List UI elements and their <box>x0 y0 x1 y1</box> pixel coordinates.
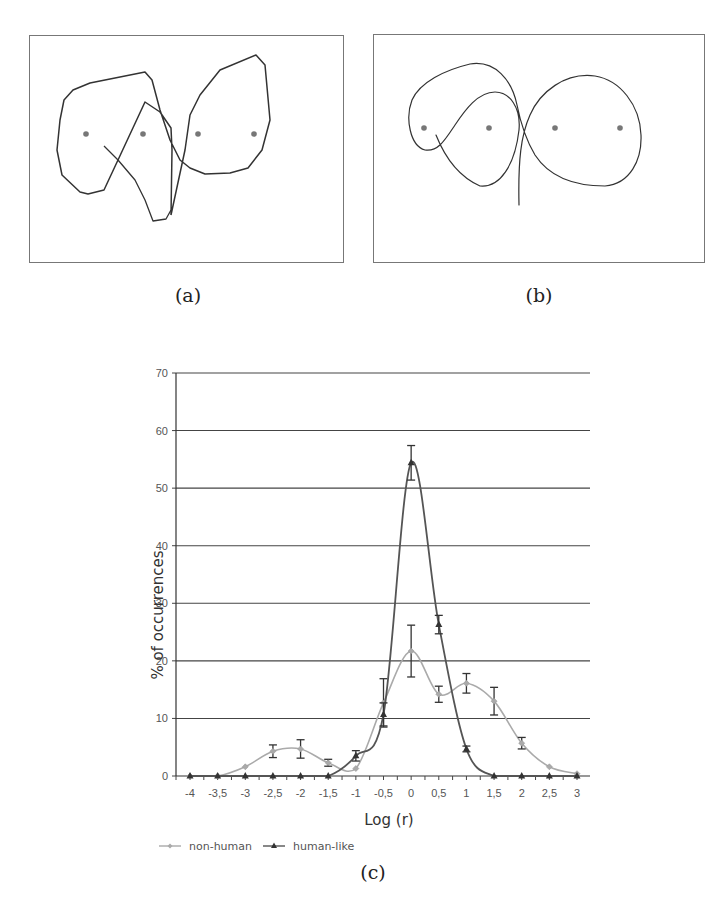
x-tick-label: 0,5 <box>431 787 446 799</box>
legend-diamond-icon <box>168 844 173 849</box>
series-human-like <box>187 446 581 779</box>
panel-c-caption: (c) <box>360 861 385 883</box>
triangle-marker-icon <box>435 621 442 628</box>
y-tick-label: 10 <box>156 712 168 724</box>
x-tick-label: 2,5 <box>542 787 557 799</box>
x-tick-label: -2 <box>296 787 306 799</box>
x-tick-label: -1 <box>351 787 361 799</box>
chart-series <box>187 446 581 779</box>
x-tick-label: 3 <box>574 787 580 799</box>
legend-label: human-like <box>293 840 354 853</box>
y-tick-label: 40 <box>156 540 168 552</box>
diamond-marker-icon <box>298 746 304 752</box>
y-tick-label: 0 <box>162 770 168 782</box>
x-tick-label: -2,5 <box>263 787 282 799</box>
y-tick-label: 70 <box>156 367 168 379</box>
x-tick-label: 2 <box>519 787 525 799</box>
legend-label: non-human <box>189 840 252 853</box>
x-tick-label: -4 <box>185 787 195 799</box>
chart-legend: non-humanhuman-like <box>159 840 354 853</box>
y-axis-title: % of occurrences <box>149 550 167 679</box>
y-tick-label: 60 <box>156 425 168 437</box>
diamond-marker-icon <box>242 764 248 770</box>
x-tick-label: -3,5 <box>208 787 227 799</box>
triangle-marker-icon <box>380 710 387 717</box>
legend-triangle-icon <box>271 843 277 849</box>
x-tick-label: 0 <box>408 787 414 799</box>
chart-axes: 010203040506070-4-3,5-3-2,5-2-1,5-1-0,50… <box>156 367 590 799</box>
diamond-marker-icon <box>325 760 331 766</box>
series-line <box>190 462 577 776</box>
x-axis-title: Log (r) <box>364 811 413 829</box>
diamond-marker-icon <box>270 748 276 754</box>
x-tick-label: -0,5 <box>374 787 393 799</box>
diamond-marker-icon <box>463 680 469 686</box>
x-tick-label: -1,5 <box>319 787 338 799</box>
x-tick-label: 1 <box>463 787 469 799</box>
occurrence-chart: 010203040506070-4-3,5-3-2,5-2-1,5-1-0,50… <box>0 0 720 899</box>
diamond-marker-icon <box>408 648 414 654</box>
y-tick-label: 50 <box>156 482 168 494</box>
x-tick-label: 1,5 <box>486 787 501 799</box>
chart-gridlines <box>176 373 590 718</box>
x-tick-label: -3 <box>240 787 250 799</box>
series-non-human <box>187 625 580 779</box>
